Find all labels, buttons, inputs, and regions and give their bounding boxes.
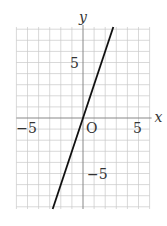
x-axis-label: x xyxy=(155,109,163,125)
y-tick-label-5: 5 xyxy=(70,55,79,71)
y-axis-label: y xyxy=(78,9,88,25)
origin-label: O xyxy=(86,120,97,136)
line-chart: x y O −5 5 5 −5 xyxy=(0,0,167,226)
y-tick-label-neg5: −5 xyxy=(87,166,108,182)
x-tick-label-5: 5 xyxy=(133,120,142,136)
x-tick-label-neg5: −5 xyxy=(16,120,37,136)
